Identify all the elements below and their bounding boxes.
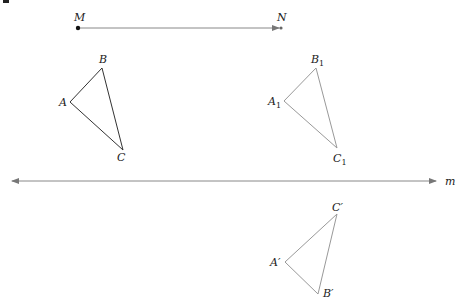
label-c: C	[117, 151, 126, 164]
label-a: A	[58, 96, 67, 109]
vector-mn: M N	[73, 11, 287, 30]
label-a-prime: A′	[269, 256, 281, 269]
label-b1: B1	[310, 53, 324, 68]
point-m	[76, 26, 80, 30]
line-m: m	[12, 175, 455, 188]
triangle-prime-shape	[285, 214, 337, 294]
triangle-a1b1c1-shape	[284, 68, 337, 148]
label-b-prime: B′	[322, 287, 334, 300]
label-b: B	[98, 53, 107, 66]
point-n	[279, 26, 282, 29]
geometry-diagram: M N A B C A1 B1 C1 m A′ B′ C′	[0, 0, 468, 305]
triangle-a1b1c1: A1 B1 C1	[267, 53, 347, 167]
triangle-abc-shape	[70, 68, 123, 150]
label-c1: C1	[333, 152, 347, 167]
label-a1: A1	[267, 95, 281, 110]
triangle-abc: A B C	[58, 53, 126, 164]
triangle-a-prime-b-prime-c-prime: A′ B′ C′	[269, 201, 343, 300]
label-m-point: M	[73, 11, 86, 24]
label-line-m: m	[445, 175, 455, 188]
label-n-point: N	[276, 11, 287, 24]
label-c-prime: C′	[332, 201, 343, 214]
